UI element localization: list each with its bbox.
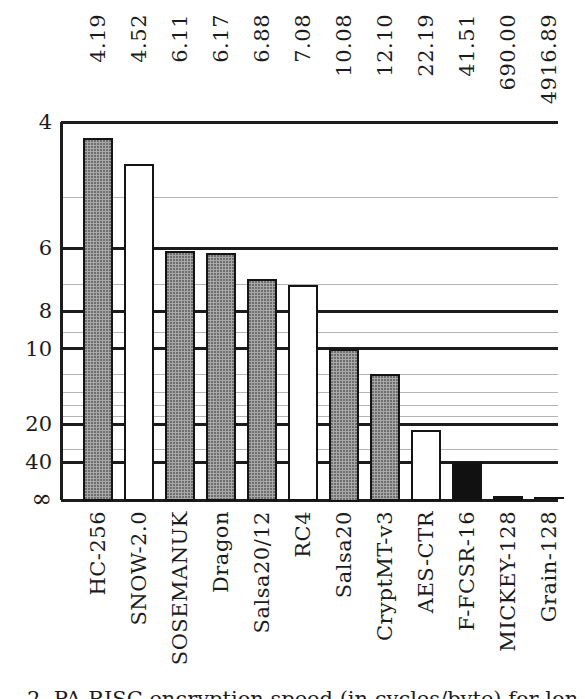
bar-Grain-128 — [534, 497, 564, 499]
category-label-wrap-HC-256: HC-256 — [85, 511, 111, 681]
value-label-RC4: 7.08 — [291, 14, 315, 63]
bar-Salsa20 — [329, 349, 359, 502]
bar-HC-256 — [83, 138, 113, 502]
bar-SNOW-2.0 — [124, 164, 154, 502]
category-label-F-FCSR-16: F-FCSR-16 — [455, 511, 479, 631]
category-label-wrap-RC4: RC4 — [290, 511, 316, 681]
category-label-wrap-F-FCSR-16: F-FCSR-16 — [454, 511, 480, 681]
bar-F-FCSR-16 — [452, 462, 482, 501]
category-label-wrap-MICKEY-128: MICKEY-128 — [495, 511, 521, 681]
category-label-wrap-Dragon: Dragon — [208, 511, 234, 681]
figure-caption: 2. PA-RISC encryption speed (in cycles/b… — [27, 687, 585, 699]
value-label-wrap-RC4: 7.08 — [290, 14, 316, 118]
category-label-CryptMT-v3: CryptMT-v3 — [373, 511, 397, 641]
y-axis-label-6: 6 — [0, 237, 52, 259]
bar-CryptMT-v3 — [370, 374, 400, 502]
value-label-wrap-Dragon: 6.17 — [208, 14, 234, 118]
category-label-Dragon: Dragon — [209, 511, 233, 593]
benchmark-figure: 4.194.526.116.176.887.0810.0812.1022.194… — [0, 0, 585, 699]
value-label-HC-256: 4.19 — [86, 14, 110, 63]
value-label-wrap-SNOW-2.0: 4.52 — [126, 14, 152, 118]
category-label-Salsa20: Salsa20 — [332, 511, 356, 598]
category-label-RC4: RC4 — [291, 511, 315, 558]
value-label-MICKEY-128: 690.00 — [496, 14, 520, 90]
y-axis-label-40: 40 — [0, 451, 52, 473]
category-label-MICKEY-128: MICKEY-128 — [496, 511, 520, 652]
y-axis-label-4: 4 — [0, 111, 52, 133]
category-label-SNOW-2.0: SNOW-2.0 — [127, 511, 151, 626]
y-axis-label-20: 20 — [0, 413, 52, 435]
y-axis-label-∞: ∞ — [0, 489, 52, 509]
value-label-Grain-128: 4916.89 — [537, 14, 561, 104]
category-label-Grain-128: Grain-128 — [537, 511, 561, 622]
bar-AES-CTR — [411, 430, 441, 501]
value-label-SOSEMANUK: 6.11 — [168, 14, 192, 63]
value-label-wrap-F-FCSR-16: 41.51 — [454, 14, 480, 118]
value-label-SNOW-2.0: 4.52 — [127, 14, 151, 63]
y-axis-label-10: 10 — [0, 338, 52, 360]
y-axis-line — [60, 122, 63, 500]
value-label-AES-CTR: 22.19 — [414, 14, 438, 77]
category-label-wrap-SOSEMANUK: SOSEMANUK — [167, 511, 193, 681]
category-label-wrap-Grain-128: Grain-128 — [536, 511, 562, 681]
category-label-wrap-Salsa20: Salsa20 — [331, 511, 357, 681]
category-label-wrap-Salsa20/12: Salsa20/12 — [249, 511, 275, 681]
major-gridline-4 — [61, 121, 558, 124]
value-label-Salsa20/12: 6.88 — [250, 14, 274, 63]
bar-Dragon — [206, 253, 236, 501]
category-label-wrap-AES-CTR: AES-CTR — [413, 511, 439, 681]
value-label-wrap-AES-CTR: 22.19 — [413, 14, 439, 118]
category-label-wrap-CryptMT-v3: CryptMT-v3 — [372, 511, 398, 681]
bar-SOSEMANUK — [165, 251, 195, 501]
value-label-wrap-Grain-128: 4916.89 — [536, 14, 562, 118]
bar-RC4 — [288, 285, 318, 502]
category-label-Salsa20/12: Salsa20/12 — [250, 511, 274, 633]
category-label-wrap-SNOW-2.0: SNOW-2.0 — [126, 511, 152, 681]
value-label-wrap-Salsa20/12: 6.88 — [249, 14, 275, 118]
value-label-F-FCSR-16: 41.51 — [455, 14, 479, 77]
value-label-wrap-SOSEMANUK: 6.11 — [167, 14, 193, 118]
value-label-wrap-CryptMT-v3: 12.10 — [372, 14, 398, 118]
value-label-CryptMT-v3: 12.10 — [373, 14, 397, 77]
value-label-wrap-Salsa20: 10.08 — [331, 14, 357, 118]
value-label-Dragon: 6.17 — [209, 14, 233, 63]
category-label-HC-256: HC-256 — [86, 511, 110, 596]
value-label-Salsa20: 10.08 — [332, 14, 356, 77]
category-label-AES-CTR: AES-CTR — [414, 511, 438, 613]
value-label-wrap-HC-256: 4.19 — [85, 14, 111, 118]
bar-MICKEY-128 — [493, 496, 523, 501]
bar-Salsa20/12 — [247, 279, 277, 502]
value-label-wrap-MICKEY-128: 690.00 — [495, 14, 521, 118]
category-label-SOSEMANUK: SOSEMANUK — [168, 511, 192, 665]
y-axis-label-8: 8 — [0, 300, 52, 322]
